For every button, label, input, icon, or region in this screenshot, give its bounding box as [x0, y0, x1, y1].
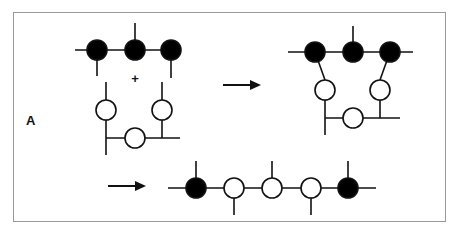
reactant-filled-chain — [75, 23, 181, 78]
open-node — [96, 100, 116, 120]
plus-sign: + — [131, 71, 139, 86]
filled-node — [161, 40, 181, 60]
arrow-right-icon — [108, 181, 146, 191]
product-linear-chain — [168, 161, 376, 215]
open-node — [224, 178, 244, 198]
open-node — [125, 128, 145, 148]
open-node — [262, 178, 282, 198]
open-node — [315, 80, 335, 100]
filled-node — [305, 42, 325, 62]
open-node — [152, 100, 172, 120]
filled-node — [338, 178, 358, 198]
arrow-right-icon — [223, 80, 261, 90]
filled-node — [87, 40, 107, 60]
filled-node — [380, 42, 400, 62]
filled-node — [186, 178, 206, 198]
open-node — [370, 80, 390, 100]
reaction-diagram: + — [0, 0, 461, 238]
reactant-open-chain — [96, 82, 180, 155]
open-node — [301, 178, 321, 198]
open-node — [343, 108, 363, 128]
filled-node — [125, 40, 145, 60]
filled-node — [343, 42, 363, 62]
product-loop-structure — [288, 26, 413, 135]
